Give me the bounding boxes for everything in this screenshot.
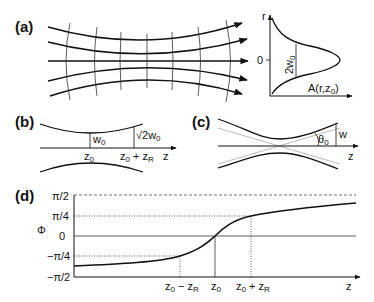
svg-text:π/2: π/2 xyxy=(52,190,69,202)
svg-text:π/4: π/4 xyxy=(52,210,69,222)
z-axis-label-c: z xyxy=(348,150,354,162)
gaussian-profile: r 0 2w0 A(r,z0) xyxy=(257,10,352,96)
svg-text:z0 − zR: z0 − zR xyxy=(165,280,199,294)
panel-b: (b) w0 √2w0 z0 z0 + zR z xyxy=(15,113,176,172)
panel-c: (c) θ0 w z xyxy=(192,113,358,169)
svg-text:0: 0 xyxy=(59,230,65,242)
svg-text:−π/4: −π/4 xyxy=(47,250,70,262)
z0-label: z0 xyxy=(84,150,95,164)
zero-label: 0 xyxy=(257,54,263,66)
z-axis-label-b: z xyxy=(163,150,169,162)
two-w0-label: 2w0 xyxy=(283,55,297,74)
gaussian-beam-figure: (a) r 0 2w0 A(r, xyxy=(0,0,374,302)
svg-text:z0 + zR: z0 + zR xyxy=(236,280,270,294)
panel-b-label: (b) xyxy=(15,113,34,130)
panel-a: (a) r 0 2w0 A(r, xyxy=(15,10,352,102)
sqrt2-w0-label: √2w0 xyxy=(136,129,161,143)
amplitude-label: A(r,z0) xyxy=(308,82,339,96)
svg-text:z0: z0 xyxy=(211,280,222,294)
beam-rays xyxy=(48,23,248,96)
panel-d-label: (d) xyxy=(15,187,34,204)
svg-text:−π/2: −π/2 xyxy=(47,271,70,283)
panel-a-label: (a) xyxy=(15,18,33,35)
r-axis-label: r xyxy=(262,10,266,22)
y-tick-labels: π/2 π/4 0 −π/4 −π/2 xyxy=(47,190,70,283)
panel-d: (d) Φ π/2 π/4 0 −π/4 −π/2 z0 − zR z0 z0 … xyxy=(15,187,360,294)
panel-c-label: (c) xyxy=(192,113,210,130)
theta0-label: θ0 xyxy=(318,133,329,147)
x-tick-labels: z0 − zR z0 z0 + zR z xyxy=(165,280,352,294)
phi-axis-label: Φ xyxy=(37,224,46,236)
w0-label: w0 xyxy=(92,133,106,147)
w-label: w xyxy=(338,128,347,140)
z0-plus-zr-label: z0 + zR xyxy=(120,150,154,164)
svg-text:z: z xyxy=(346,280,352,292)
figure-canvas: (a) r 0 2w0 A(r, xyxy=(0,0,374,302)
